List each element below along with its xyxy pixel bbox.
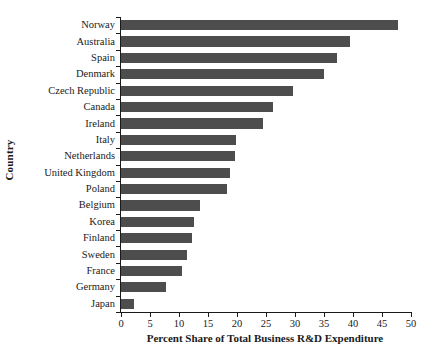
bar bbox=[121, 217, 194, 227]
y-tick-label: United Kingdom bbox=[44, 167, 115, 178]
y-tick-mark bbox=[116, 132, 121, 133]
x-tick-label: 30 bbox=[290, 319, 301, 330]
bar bbox=[121, 69, 324, 79]
bar-row: Japan bbox=[121, 296, 411, 312]
bar-row: Spain bbox=[121, 50, 411, 66]
x-tick-mark bbox=[121, 312, 122, 317]
x-tick-mark bbox=[382, 312, 383, 317]
bar-row: Belgium bbox=[121, 197, 411, 213]
bar bbox=[121, 53, 337, 63]
bar bbox=[121, 282, 166, 292]
x-tick-label: 15 bbox=[203, 319, 214, 330]
y-tick-label: Ireland bbox=[85, 118, 115, 129]
y-tick-mark bbox=[116, 115, 121, 116]
bar bbox=[121, 102, 273, 112]
bar-row: Finland bbox=[121, 230, 411, 246]
bar-row: Canada bbox=[121, 99, 411, 115]
y-tick-mark bbox=[116, 230, 121, 231]
plot-area: NorwayAustraliaSpainDenmarkCzech Republi… bbox=[120, 17, 411, 313]
x-tick-label: 40 bbox=[348, 319, 359, 330]
x-tick-mark bbox=[208, 312, 209, 317]
y-tick-mark bbox=[116, 296, 121, 297]
x-tick-mark bbox=[237, 312, 238, 317]
bar-row: Italy bbox=[121, 132, 411, 148]
y-tick-label: Sweden bbox=[82, 249, 115, 260]
bar-rows: NorwayAustraliaSpainDenmarkCzech Republi… bbox=[121, 17, 411, 312]
bar-row: Denmark bbox=[121, 66, 411, 82]
bar-row: Poland bbox=[121, 181, 411, 197]
y-tick-label: Finland bbox=[83, 233, 115, 244]
y-tick-label: Korea bbox=[89, 217, 115, 228]
x-tick-mark bbox=[411, 312, 412, 317]
x-tick-label: 5 bbox=[147, 319, 152, 330]
x-tick-mark bbox=[324, 312, 325, 317]
y-tick-label: Czech Republic bbox=[48, 85, 115, 96]
y-tick-label: Poland bbox=[86, 184, 115, 195]
bar bbox=[121, 151, 235, 161]
y-tick-mark bbox=[116, 246, 121, 247]
y-tick-label: Denmark bbox=[76, 69, 115, 80]
y-tick-mark bbox=[116, 83, 121, 84]
x-tick-label: 0 bbox=[118, 319, 123, 330]
y-tick-mark bbox=[116, 214, 121, 215]
y-tick-label: Japan bbox=[91, 299, 115, 310]
bar-chart: Country NorwayAustraliaSpainDenmarkCzech… bbox=[0, 0, 427, 362]
bar bbox=[121, 135, 236, 145]
y-tick-label: Belgium bbox=[79, 200, 115, 211]
y-tick-mark bbox=[116, 181, 121, 182]
y-axis-title-text: Country bbox=[3, 139, 15, 180]
bar-row: Norway bbox=[121, 17, 411, 33]
x-tick-mark bbox=[295, 312, 296, 317]
y-tick-mark bbox=[116, 148, 121, 149]
y-tick-mark bbox=[116, 66, 121, 67]
x-tick-mark bbox=[266, 312, 267, 317]
y-tick-mark bbox=[116, 197, 121, 198]
y-tick-label: France bbox=[86, 266, 115, 277]
bar bbox=[121, 299, 134, 309]
bar-row: Germany bbox=[121, 279, 411, 295]
bar bbox=[121, 36, 350, 46]
x-tick-label: 20 bbox=[232, 319, 243, 330]
bar bbox=[121, 118, 263, 128]
y-tick-label: Germany bbox=[76, 282, 115, 293]
y-tick-mark bbox=[116, 165, 121, 166]
bar bbox=[121, 20, 398, 30]
y-tick-mark bbox=[116, 17, 121, 18]
y-tick-label: Norway bbox=[81, 20, 115, 31]
bar-row: Sweden bbox=[121, 246, 411, 262]
bar-row: Czech Republic bbox=[121, 83, 411, 99]
y-tick-label: Spain bbox=[91, 53, 115, 64]
bar bbox=[121, 168, 230, 178]
bar-row: France bbox=[121, 263, 411, 279]
bar bbox=[121, 233, 192, 243]
bar-row: Ireland bbox=[121, 115, 411, 131]
y-axis-title: Country bbox=[0, 0, 18, 320]
x-tick-mark bbox=[179, 312, 180, 317]
bar-row: United Kingdom bbox=[121, 165, 411, 181]
x-tick-label: 10 bbox=[174, 319, 185, 330]
x-tick-mark bbox=[150, 312, 151, 317]
bar bbox=[121, 184, 227, 194]
y-tick-mark bbox=[116, 99, 121, 100]
bar bbox=[121, 200, 200, 210]
y-tick-mark bbox=[116, 279, 121, 280]
y-tick-mark bbox=[116, 33, 121, 34]
x-axis-title: Percent Share of Total Business R&D Expe… bbox=[120, 332, 410, 344]
bar bbox=[121, 250, 187, 260]
x-tick-label: 25 bbox=[261, 319, 272, 330]
x-tick-mark bbox=[353, 312, 354, 317]
bar-row: Korea bbox=[121, 214, 411, 230]
bar-row: Australia bbox=[121, 33, 411, 49]
x-tick-label: 50 bbox=[406, 319, 417, 330]
x-tick-label: 35 bbox=[319, 319, 330, 330]
x-tick-label: 45 bbox=[377, 319, 388, 330]
y-tick-label: Canada bbox=[84, 102, 116, 113]
y-tick-label: Australia bbox=[77, 36, 116, 47]
y-tick-label: Netherlands bbox=[64, 151, 115, 162]
bar bbox=[121, 266, 182, 276]
bar-row: Netherlands bbox=[121, 148, 411, 164]
y-tick-label: Italy bbox=[96, 135, 115, 146]
y-tick-mark bbox=[116, 50, 121, 51]
y-tick-mark bbox=[116, 263, 121, 264]
bar bbox=[121, 86, 293, 96]
